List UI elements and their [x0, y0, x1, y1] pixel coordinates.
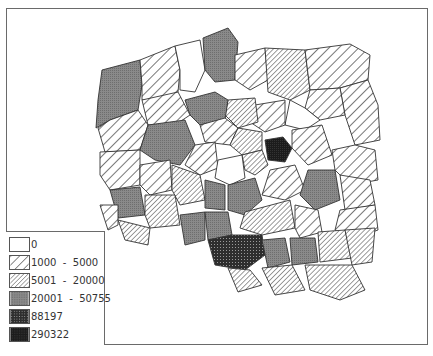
legend-swatch-gray-icon [9, 291, 30, 306]
legend-item-0: 0 [9, 236, 37, 252]
legend-item-3: 20001 - 50755 [9, 290, 111, 306]
region-radom [262, 165, 305, 200]
region-gdansk [203, 28, 238, 82]
region-slupsk [175, 40, 205, 92]
region-tarnow [290, 238, 318, 265]
region-nowy-sacz [262, 265, 305, 295]
legend-item-5: 290322 [9, 326, 69, 342]
map-legend: 0 1000 - 5000 5001 - 20000 20001 - 50755… [6, 231, 105, 345]
region-warszawa [265, 137, 292, 162]
legend-swatch-black-icon [9, 327, 30, 342]
region-sieradz [205, 180, 225, 210]
legend-swatch-wide-hatch-icon [9, 255, 30, 270]
region-krosno [305, 265, 365, 300]
region-elblag [235, 48, 268, 90]
region-lublin [300, 170, 340, 210]
legend-swatch-checker-icon [9, 309, 30, 324]
region-bialystok [340, 80, 380, 145]
region-chelm [340, 175, 375, 210]
region-katowice [208, 235, 265, 270]
region-lodz [215, 155, 245, 185]
legend-item-1: 1000 - 5000 [9, 254, 98, 270]
region-poznan [140, 120, 195, 165]
region-zielona-gora [100, 150, 140, 190]
region-przemysl [345, 228, 375, 265]
region-bielsko [228, 268, 262, 292]
legend-swatch-white-icon [9, 237, 30, 252]
region-olsztyn [265, 48, 310, 100]
legend-item-2: 5001 - 20000 [9, 272, 105, 288]
region-walbrzych [118, 220, 150, 245]
region-jelenia-gora [100, 205, 118, 230]
region-krakow [262, 238, 290, 268]
region-wroclaw [145, 195, 180, 228]
legend-item-4: 88197 [9, 308, 63, 324]
region-leszno [140, 160, 172, 195]
region-koszalin [140, 46, 180, 100]
region-opole [180, 212, 205, 245]
region-siedlce [292, 125, 332, 165]
legend-swatch-dense-hatch-icon [9, 273, 30, 288]
region-skierniewice [242, 150, 268, 175]
